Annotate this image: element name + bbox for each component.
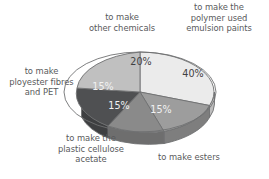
pie-label-esters: to make esters <box>142 152 236 163</box>
pie-chart-figure: 40% 20% 15% 15% 15% to make the polymer … <box>0 0 269 179</box>
pie-value-other-chemicals: 20% <box>126 57 156 67</box>
pie-value-polyester: 15% <box>88 82 118 92</box>
pie-value-polymer: 40% <box>178 69 208 79</box>
pie-label-polyester: to make ployester fibres and PET <box>0 66 83 98</box>
pie-label-cellulose: to make the plastic cellulose acetate <box>42 133 140 165</box>
pie-value-esters: 15% <box>146 105 176 115</box>
pie-label-polymer: to make the polymer used emulsion paints <box>171 2 267 34</box>
pie-label-other-chemicals: to make other chemicals <box>76 12 168 33</box>
pie-value-cellulose: 15% <box>104 101 134 111</box>
